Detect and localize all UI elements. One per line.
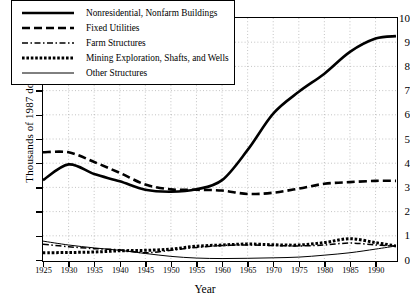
legend-label: Farm Structures: [86, 38, 146, 48]
legend-swatch-solid-thick: [20, 7, 76, 19]
legend-swatch-dashed: [20, 22, 76, 34]
x-tickmark-1970: [273, 262, 274, 267]
x-tickmark-1990: [375, 262, 376, 267]
x-tickmark-1955: [196, 262, 197, 267]
x-tickmark-1980: [324, 262, 325, 267]
legend-item: Other Structures: [12, 65, 234, 80]
series-line: [43, 152, 396, 194]
chart-legend: Nonresidential, Nonfarm BuildingsFixed U…: [11, 0, 235, 85]
series-line: [43, 239, 396, 253]
legend-swatch-dash-dot: [20, 37, 76, 49]
legend-swatch-solid-thin: [20, 67, 76, 79]
x-tickmark-1930: [68, 262, 69, 267]
x-tickmark-1925: [43, 262, 44, 267]
legend-label: Other Structures: [86, 68, 147, 78]
x-tickmark-1935: [94, 262, 95, 267]
x-tickmark-1940: [120, 262, 121, 267]
legend-swatch-dotted-thick: [20, 52, 76, 64]
x-tickmark-1945: [145, 262, 146, 267]
legend-item: Fixed Utilities: [12, 20, 234, 35]
x-tick-1990: 1990: [356, 266, 396, 275]
legend-label: Mining Exploration, Shafts, and Wells: [86, 53, 229, 63]
x-tickmark-1985: [350, 262, 351, 267]
legend-item: Farm Structures: [12, 35, 234, 50]
x-axis-label: Year: [0, 283, 410, 295]
legend-label: Nonresidential, Nonfarm Buildings: [86, 8, 217, 18]
x-tickmark-1960: [222, 262, 223, 267]
legend-item: Mining Exploration, Shafts, and Wells: [12, 50, 234, 65]
chart-container: Thousands of 1987 dollars, per capita 10…: [0, 0, 410, 303]
x-tickmark-1965: [247, 262, 248, 267]
x-tickmark-1975: [299, 262, 300, 267]
legend-label: Fixed Utilities: [86, 23, 139, 33]
x-tickmark-1950: [171, 262, 172, 267]
legend-item: Nonresidential, Nonfarm Buildings: [12, 5, 234, 20]
